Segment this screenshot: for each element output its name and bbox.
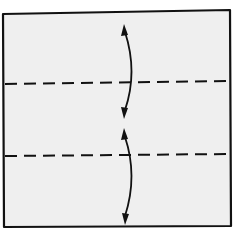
paper-square: [3, 10, 231, 227]
origami-diagram: [0, 0, 243, 235]
